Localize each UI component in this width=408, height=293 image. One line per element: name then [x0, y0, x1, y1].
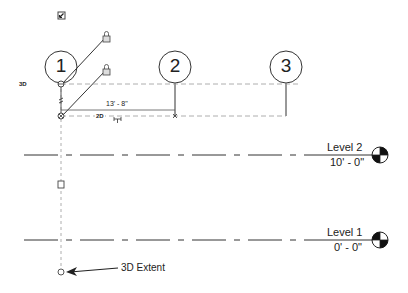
lock-icon[interactable] [103, 65, 110, 76]
level-head-target-icon[interactable] [372, 147, 388, 163]
extent-square-handle[interactable] [58, 181, 64, 188]
grid-end-handle-icon[interactable] [58, 81, 64, 87]
level-2-name[interactable]: Level 2 [327, 141, 362, 153]
lock-icon[interactable] [103, 32, 110, 43]
drag-handle-icon[interactable] [114, 117, 121, 123]
grid-label-1[interactable]: 1 [46, 55, 76, 77]
level-2-elevation[interactable]: 10' - 0" [330, 156, 364, 168]
annotation-arrow [70, 268, 118, 272]
grid-end-handle-icon[interactable] [58, 113, 64, 119]
3d-extent-circle-handle[interactable] [58, 269, 64, 275]
dimension-value[interactable]: 13' - 8" [106, 100, 128, 107]
3d-toggle-tag[interactable]: 3D [19, 81, 27, 87]
3d-extent-annotation: 3D Extent [121, 262, 165, 273]
level-1-elevation[interactable]: 0' - 0" [334, 241, 362, 253]
level-1-name[interactable]: Level 1 [327, 226, 362, 238]
grid-label-2[interactable]: 2 [160, 55, 190, 77]
hide-bubble-checkbox-icon[interactable] [58, 12, 65, 19]
2d-toggle-tag[interactable]: 2D [95, 113, 105, 119]
level-head-target-icon[interactable] [372, 232, 388, 248]
grid-label-3[interactable]: 3 [271, 55, 301, 77]
